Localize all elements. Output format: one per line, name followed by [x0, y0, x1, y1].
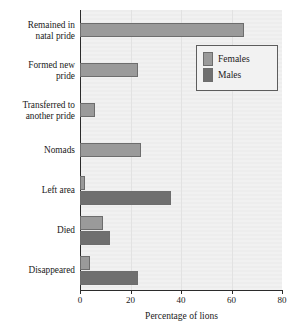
bar-males — [80, 231, 110, 245]
category-label: Nomads — [0, 145, 75, 156]
legend-label-females: Females — [218, 54, 250, 65]
bar-females — [80, 176, 85, 190]
bar-females — [80, 216, 103, 230]
x-axis-tick — [232, 290, 233, 294]
legend-label-males: Males — [218, 70, 241, 81]
x-axis-tick — [181, 290, 182, 294]
chart-figure: 020406080 Remained innatal prideFormed n… — [0, 0, 290, 332]
bar-females — [80, 256, 90, 270]
category-label: Transferred toanother pride — [0, 100, 75, 121]
legend-item-males: Males — [203, 68, 271, 82]
chart-legend: Females Males — [196, 45, 278, 91]
category-label: Disappeared — [0, 265, 75, 276]
x-axis-tick — [80, 290, 81, 294]
bar-females — [80, 103, 95, 117]
category-label: Formed newpride — [0, 60, 75, 81]
bar-females — [80, 23, 244, 37]
x-axis-tick-label: 0 — [67, 295, 93, 305]
bar-females — [80, 63, 138, 77]
category-label: Left area — [0, 185, 75, 196]
bar-males — [80, 191, 171, 205]
x-axis-tick — [282, 290, 283, 294]
x-axis-title: Percentage of lions — [80, 311, 283, 321]
bar-males — [80, 271, 138, 285]
x-axis-tick-label: 20 — [118, 295, 144, 305]
x-axis-tick — [131, 290, 132, 294]
category-label: Died — [0, 225, 75, 236]
legend-swatch-females-icon — [203, 52, 213, 66]
gridline — [181, 10, 182, 290]
category-label: Remained innatal pride — [0, 20, 75, 41]
legend-swatch-males-icon — [203, 68, 213, 82]
legend-item-females: Females — [203, 52, 271, 66]
x-axis-tick-label: 40 — [168, 295, 194, 305]
x-axis-tick-label: 80 — [269, 295, 290, 305]
bar-females — [80, 143, 141, 157]
x-axis-tick-label: 60 — [219, 295, 245, 305]
